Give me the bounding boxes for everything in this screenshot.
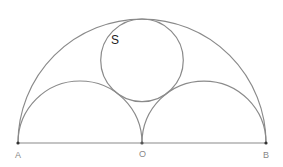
left-semicircle <box>18 81 142 143</box>
point-b <box>264 141 267 144</box>
large-semicircle <box>18 19 266 143</box>
label-a: A <box>15 150 21 160</box>
right-semicircle <box>142 81 266 143</box>
label-b: B <box>263 150 269 160</box>
geometry-diagram: A O B S <box>0 0 283 167</box>
inscribed-circle-s <box>101 19 184 102</box>
label-s: S <box>111 33 119 47</box>
point-a <box>16 141 19 144</box>
point-o <box>140 141 143 144</box>
label-o: O <box>139 149 146 159</box>
